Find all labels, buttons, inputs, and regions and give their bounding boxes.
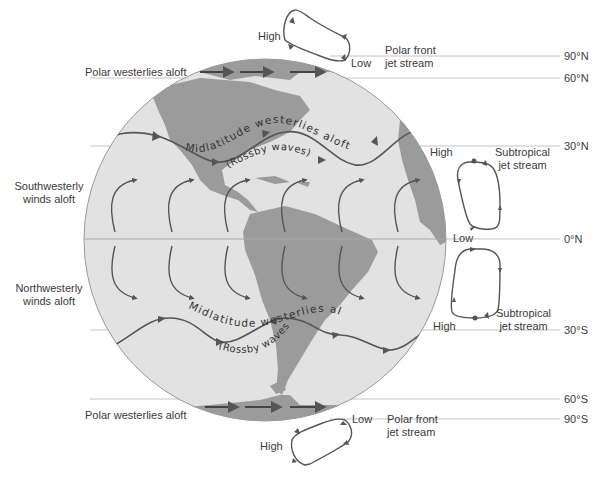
latitude-label-30n: 30°N — [564, 140, 589, 153]
polar-south-jet-line1: Polar front — [387, 413, 438, 426]
northwesterly-line2: winds aloft — [14, 295, 84, 308]
northwesterly-line1: Northwesterly — [14, 282, 84, 295]
subtropical-cell-north — [458, 162, 501, 229]
polar-north-jet-label: Polar front jet stream — [385, 44, 436, 70]
latitude-label-60s: 60°S — [564, 393, 588, 406]
equator-low-label: Low — [453, 232, 473, 245]
subtropical-north-jet-label: Subtropical jet stream — [495, 146, 550, 172]
southwesterly-line2: winds aloft — [14, 193, 84, 206]
latitude-label-30s: 30°S — [564, 324, 588, 337]
latitude-label-90n: 90°N — [564, 50, 589, 63]
subtropical-south-high-label: High — [433, 320, 456, 333]
latitude-label-60n: 60°N — [564, 72, 589, 85]
latitude-label-90s: 90°S — [564, 413, 588, 426]
subtropical-north-jet-line1: Subtropical — [495, 146, 550, 159]
polar-north-high-label: High — [258, 30, 281, 43]
polar-south-low-label: Low — [352, 413, 372, 426]
polar-north-jet-line1: Polar front — [385, 44, 436, 57]
polar-cell-north — [284, 10, 350, 61]
subtropical-south-jet-label: Subtropical jet stream — [496, 307, 551, 333]
polar-cell-south — [292, 419, 352, 465]
polar-westerlies-south-label: Polar westerlies aloft — [85, 409, 187, 422]
subtropical-south-jet-line1: Subtropical — [496, 307, 551, 320]
polar-south-jet-label: Polar front jet stream — [387, 413, 438, 439]
southwesterly-label: Southwesterly winds aloft — [14, 180, 84, 206]
polar-north-jet-line2: jet stream — [385, 57, 436, 70]
northwesterly-label: Northwesterly winds aloft — [14, 282, 84, 308]
polar-north-low-label: Low — [351, 57, 371, 70]
polar-cell-south-arrowheads — [292, 421, 349, 463]
polar-south-high-label: High — [260, 440, 283, 453]
subtropical-cell-south-arrowheads — [452, 247, 502, 321]
latitude-label-0n: 0°N — [564, 233, 582, 246]
polar-south-jet-line2: jet stream — [387, 426, 438, 439]
subtropical-north-jet-line2: jet stream — [495, 159, 550, 172]
subtropical-south-jet-line2: jet stream — [496, 320, 551, 333]
polar-westerlies-north-label: Polar westerlies aloft — [85, 66, 187, 79]
globe — [84, 58, 450, 425]
southwesterly-line1: Southwesterly — [14, 180, 84, 193]
subtropical-cell-south — [451, 249, 500, 318]
subtropical-north-high-label: High — [430, 146, 453, 159]
